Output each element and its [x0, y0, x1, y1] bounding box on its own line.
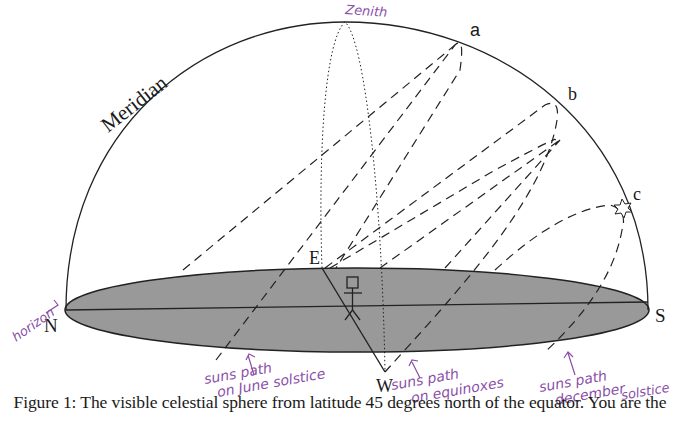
zenith-annotation: Zenith — [344, 2, 388, 20]
meridian-label: Meridian — [96, 70, 172, 137]
point-c-label: c — [633, 184, 641, 204]
december-solstice-path-lower — [380, 140, 560, 268]
meridian-arc — [66, 22, 648, 310]
south-label: S — [655, 305, 666, 326]
celestial-sphere-diagram: Meridian N S E W a b c Zenith horizon su… — [0, 0, 680, 423]
horizon-plane — [65, 268, 649, 352]
point-b-label: b — [568, 84, 577, 104]
point-a-label: a — [470, 20, 481, 40]
east-label: E — [309, 248, 320, 268]
figure-caption: Figure 1: The visible celestial sphere f… — [0, 392, 680, 413]
june-solstice-path-back — [183, 45, 455, 270]
